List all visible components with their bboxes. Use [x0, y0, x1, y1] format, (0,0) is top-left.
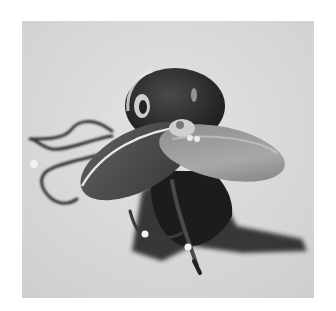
bead-1: [187, 135, 193, 141]
lure-eye-pupil: [139, 100, 147, 114]
shaft-glint: [185, 244, 192, 251]
lure-photo: Fishing lure with spinner blade and hook…: [22, 21, 314, 298]
bead-2: [194, 136, 200, 142]
lure-illustration: [22, 21, 314, 298]
hub-screw: [176, 121, 184, 129]
hook-glint: [30, 160, 38, 168]
hook-glint-bottom: [142, 231, 149, 238]
lure-eye-right: [191, 88, 197, 102]
